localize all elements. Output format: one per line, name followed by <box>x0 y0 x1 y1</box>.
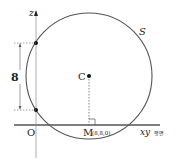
center-point <box>87 74 91 78</box>
segment-length-label: 8 <box>11 71 19 84</box>
z-axis-arrow-icon <box>34 10 38 16</box>
plane-suffix-label: 평면 <box>154 130 164 136</box>
center-label: C <box>78 71 86 82</box>
sphere-diagram: 8 z S C O M (8,8,0) xy 평면 <box>0 0 176 164</box>
z-axis-label: z <box>28 8 34 18</box>
sphere-label: S <box>139 26 146 37</box>
origin-label: O <box>27 127 35 138</box>
dimension-arrow-down-icon <box>19 106 22 110</box>
foot-coords-label: (8,8,0) <box>92 130 110 136</box>
plane-label: xy <box>140 127 151 137</box>
dimension-arrow-up-icon <box>19 43 22 47</box>
right-angle-mark <box>89 119 95 125</box>
